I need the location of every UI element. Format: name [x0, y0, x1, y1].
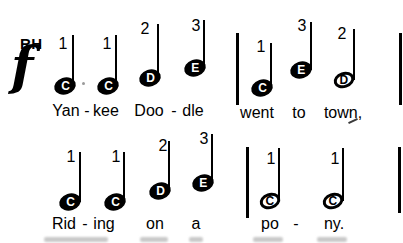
ink-dot	[82, 82, 85, 85]
lyric-syllable: on	[146, 216, 164, 232]
finger-number: 2	[141, 21, 150, 37]
note-letter: C	[104, 80, 113, 92]
finger-number: 1	[67, 149, 76, 165]
note-stem	[310, 22, 312, 70]
note-letter: E	[297, 64, 305, 76]
note-letter: C	[111, 196, 120, 208]
finger-number: 1	[257, 39, 266, 55]
scan-smudge	[253, 237, 283, 242]
note-stem	[342, 148, 344, 201]
lyric-syllable: a	[192, 216, 201, 232]
note-letter: C	[258, 82, 267, 94]
lyric-syllable: Rid	[52, 216, 76, 232]
lyric-syllable: po	[261, 216, 279, 232]
finger-number: 3	[200, 131, 209, 147]
finger-number: 1	[331, 151, 340, 167]
finger-number: 1	[112, 149, 121, 165]
note-letter: E	[191, 62, 199, 74]
lyric-syllable: Yan	[52, 103, 79, 119]
lyric-syllable: -	[293, 216, 298, 232]
note-letter: E	[199, 177, 207, 189]
lyric-syllable: dle	[182, 103, 203, 119]
barline	[246, 147, 249, 218]
finger-number: 1	[59, 36, 68, 52]
barline	[398, 147, 401, 213]
lyric-syllable: Doo	[134, 103, 163, 119]
scan-smudge	[317, 237, 347, 242]
barline	[236, 33, 239, 105]
barline	[399, 33, 402, 105]
note-letter: D	[156, 185, 165, 197]
scan-smudge	[189, 237, 203, 242]
lyric-syllable: ny.	[324, 216, 344, 232]
note-stem	[353, 29, 355, 80]
lyric-syllable: -	[84, 103, 89, 119]
lyric-syllable: ing	[93, 216, 114, 232]
finger-number: 3	[192, 18, 201, 34]
lyric-syllable: -	[171, 103, 176, 119]
finger-number: 2	[159, 138, 168, 154]
finger-number: 1	[103, 36, 112, 52]
lyric-syllable: to	[292, 105, 305, 121]
scan-smudge	[44, 237, 108, 242]
lyric-syllable: went	[240, 105, 274, 121]
note-letter: C	[329, 195, 338, 207]
notehead-quarter-note: C	[95, 75, 121, 98]
finger-number: 3	[298, 18, 307, 34]
notehead-quarter-note: D	[137, 67, 163, 90]
lyric-syllable: -	[82, 216, 87, 232]
note-letter: D	[340, 74, 349, 86]
finger-number: 2	[338, 26, 347, 42]
finger-number: 1	[267, 151, 276, 167]
note-letter: D	[146, 72, 155, 84]
note-stem	[278, 148, 280, 201]
scan-smudge	[140, 237, 168, 242]
note-letter: C	[66, 196, 75, 208]
notehead-quarter-note: C	[52, 75, 78, 98]
lyric-syllable: kee	[93, 103, 119, 119]
music-sheet: RH f 1C1C2D3E1C3E2DYan-keeDoo-dlewenttot…	[0, 0, 403, 243]
note-letter: C	[61, 80, 70, 92]
forte-dynamic-icon: f	[11, 40, 33, 92]
note-stem	[79, 152, 81, 202]
note-letter: C	[266, 195, 275, 207]
